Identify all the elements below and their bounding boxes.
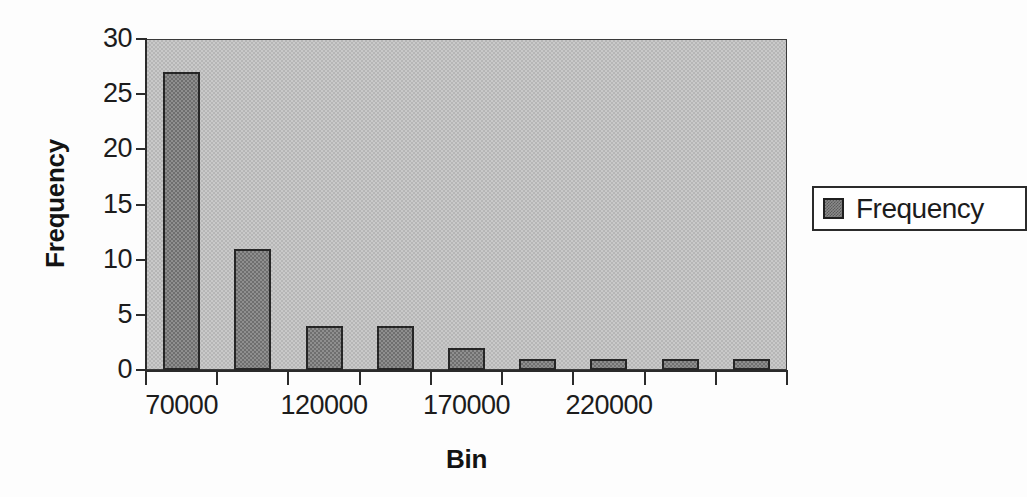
x-tick-6 xyxy=(572,371,574,385)
x-tick-5 xyxy=(501,371,503,385)
y-tick-label-5: 5 xyxy=(72,301,132,328)
x-tick-label-170000: 170000 xyxy=(423,392,510,419)
x-tick-label-220000: 220000 xyxy=(565,392,652,419)
x-tick-label-120000: 120000 xyxy=(280,392,367,419)
y-tick-label-25: 25 xyxy=(72,80,132,107)
x-tick-label-70000: 70000 xyxy=(145,392,218,419)
bar-145000 xyxy=(377,326,414,370)
bar-270000 xyxy=(733,359,770,370)
x-tick-2 xyxy=(287,371,289,385)
legend-label-frequency: Frequency xyxy=(856,195,984,223)
x-axis-line xyxy=(145,370,788,372)
legend[interactable]: Frequency xyxy=(812,186,1027,231)
y-tick-5 xyxy=(136,314,147,316)
x-tick-3 xyxy=(359,371,361,385)
x-tick-8 xyxy=(715,371,717,385)
y-tick-15 xyxy=(136,204,147,206)
bar-245000 xyxy=(662,359,699,370)
y-tick-20 xyxy=(136,148,147,150)
x-tick-1 xyxy=(216,371,218,385)
bar-220000 xyxy=(590,359,627,370)
x-axis-title: Bin xyxy=(146,444,787,475)
bar-195000 xyxy=(519,359,556,370)
bar-95000 xyxy=(234,249,271,370)
bar-70000 xyxy=(163,72,200,370)
y-tick-30 xyxy=(136,38,147,40)
y-tick-25 xyxy=(136,93,147,95)
bar-120000 xyxy=(306,326,343,370)
bar-170000 xyxy=(448,348,485,370)
x-tick-0 xyxy=(145,371,147,385)
x-tick-7 xyxy=(644,371,646,385)
legend-swatch-frequency xyxy=(823,198,844,219)
y-axis-title: Frequency xyxy=(24,128,86,278)
y-axis-title-text: Frequency xyxy=(40,139,71,268)
y-tick-label-30: 30 xyxy=(72,25,132,52)
x-tick-9 xyxy=(786,371,788,385)
histogram-chart: 051015202530 70000120000170000220000 Fre… xyxy=(0,0,1027,497)
y-tick-10 xyxy=(136,259,147,261)
bars-layer xyxy=(146,39,787,370)
x-tick-4 xyxy=(430,371,432,385)
y-tick-label-0: 0 xyxy=(72,356,132,383)
